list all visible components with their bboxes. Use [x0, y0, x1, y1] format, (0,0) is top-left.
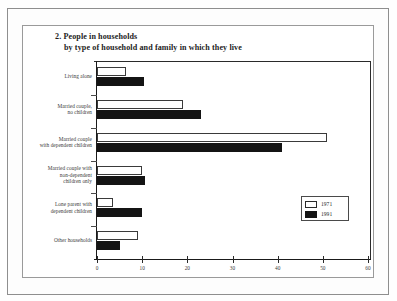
bar-1971-2: [97, 133, 327, 142]
group-separator-1: [91, 95, 97, 96]
category-label-3: Married couple withnon-dependentchildren…: [12, 165, 92, 185]
bar-1991-5: [97, 241, 120, 250]
category-label-4: Lone parent withdependent children: [12, 201, 92, 214]
group-separator-3: [91, 161, 97, 162]
bar-1991-3: [97, 176, 145, 185]
x-tick-40: [278, 256, 279, 263]
category-label-line: with dependent children: [12, 142, 92, 149]
chart-title-line1: 2. People in households: [55, 32, 137, 41]
x-tick-label-30: 30: [223, 265, 243, 271]
category-label-line: non-dependent: [12, 172, 92, 179]
x-tick-60: [368, 256, 369, 263]
category-label-line: Married couple,: [12, 103, 92, 110]
category-label-line: dependent children: [12, 208, 92, 215]
x-tick-50: [323, 256, 324, 263]
bar-1971-3: [97, 166, 142, 175]
category-label-line: Married couple: [12, 136, 92, 143]
legend-label-1991: 1991: [321, 211, 332, 218]
x-tick-label-0: 0: [87, 265, 107, 271]
plot-area: [97, 62, 368, 259]
group-separator-5: [91, 226, 97, 227]
legend-swatch-1991: [305, 211, 317, 218]
x-tick-label-50: 50: [313, 265, 333, 271]
x-tick-label-40: 40: [268, 265, 288, 271]
group-separator-2: [91, 128, 97, 129]
category-label-line: Married couple with: [12, 165, 92, 172]
bar-1991-4: [97, 208, 142, 217]
x-tick-label-60: 60: [358, 265, 378, 271]
bar-1971-5: [97, 231, 138, 240]
legend-label-1971: 1971: [321, 201, 332, 208]
category-label-5: Other households: [12, 237, 92, 244]
category-label-0: Living alone: [12, 73, 92, 80]
bar-1991-1: [97, 110, 201, 119]
category-label-line: Lone parent with: [12, 201, 92, 208]
category-label-line: Living alone: [12, 73, 92, 80]
x-tick-10: [142, 256, 143, 263]
group-separator-4: [91, 193, 97, 194]
legend-item-1991: 1991: [305, 210, 345, 219]
chart-title: 2. People in households by type of house…: [55, 31, 355, 53]
x-tick-label-20: 20: [177, 265, 197, 271]
category-label-line: no children: [12, 109, 92, 116]
legend-swatch-1971: [305, 201, 317, 208]
bar-1991-0: [97, 77, 144, 86]
x-tick-label-10: 10: [132, 265, 152, 271]
x-tick-30: [233, 256, 234, 263]
legend-item-1971: 1971: [305, 200, 345, 209]
bar-1971-1: [97, 100, 183, 109]
category-label-line: Other households: [12, 237, 92, 244]
plot-right-edge: [370, 61, 371, 260]
category-label-2: Married couplewith dependent children: [12, 136, 92, 149]
bar-1971-4: [97, 198, 113, 207]
x-tick-0: [97, 256, 98, 263]
legend: 1971 1991: [301, 196, 349, 221]
x-tick-20: [187, 256, 188, 263]
bar-1971-0: [97, 67, 126, 76]
category-label-1: Married couple,no children: [12, 103, 92, 116]
chart-title-line2: by type of household and family in which…: [55, 42, 355, 53]
bar-1991-2: [97, 143, 282, 152]
category-label-line: children only: [12, 178, 92, 185]
scanned-page: 2. People in households by type of house…: [0, 0, 397, 301]
